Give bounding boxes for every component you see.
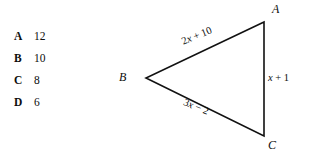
figure-page: A 12 B 10 C 8 D 6 A B C 2x + 10 3x − 2 x…	[0, 0, 309, 163]
triangle-outline	[146, 22, 264, 136]
vertex-label-a: A	[272, 2, 279, 17]
vertex-label-b: B	[119, 70, 126, 85]
vertex-label-c: C	[268, 138, 276, 153]
side-label-ac-suffix: + 1	[273, 72, 289, 83]
side-label-ac: x + 1	[268, 72, 289, 83]
triangle-graphic	[0, 0, 309, 163]
triangle-figure: A B C 2x + 10 3x − 2 x + 1	[0, 0, 309, 163]
